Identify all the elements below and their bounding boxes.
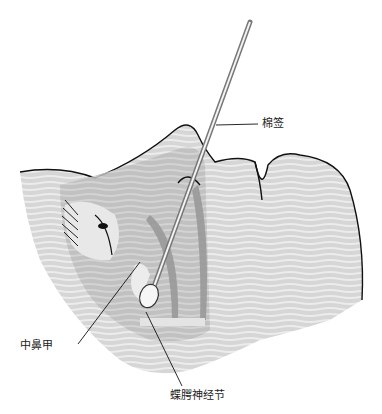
face-shape	[20, 125, 363, 373]
diagram-canvas: 棉签 中鼻甲 蝶腭神经节	[0, 0, 382, 414]
sphenopalatine-ganglion-label: 蝶腭神经节	[170, 390, 225, 401]
middle-turbinate-label: 中鼻甲	[20, 340, 53, 351]
face-illustration	[0, 0, 382, 414]
swab-label: 棉签	[262, 118, 284, 129]
